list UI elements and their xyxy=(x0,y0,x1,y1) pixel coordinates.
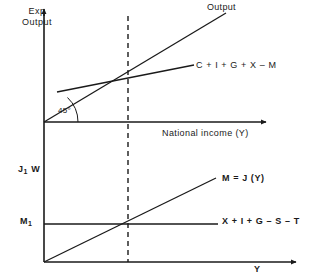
aggregate-expenditure-line-label: C + I + G + X – M xyxy=(196,60,276,71)
m1-tick-label-subscript: 1 xyxy=(28,220,32,227)
m1-tick-label: M1 xyxy=(20,216,32,229)
aggregate-expenditure-line xyxy=(57,65,194,92)
lower-y-axis-label-w: W xyxy=(31,164,40,174)
angle-label-45-degrees: 45° xyxy=(58,105,71,116)
m1-tick-label-main: M xyxy=(20,216,28,226)
upper-y-axis-label-line1: Exp xyxy=(22,6,52,17)
imports-function-line xyxy=(44,178,216,262)
output-line-label: Output xyxy=(207,2,236,13)
imports-function-label: M = J (Y) xyxy=(222,173,265,184)
lower-y-axis-label: J1 W xyxy=(18,164,40,177)
lower-x-axis-label: Y xyxy=(254,264,260,275)
upper-x-axis-label: National income (Y) xyxy=(162,128,249,139)
upper-y-axis-label-line2: Output xyxy=(22,17,52,28)
injections-line-label: X + I + G – S – T xyxy=(222,216,300,227)
keynesian-cross-diagram: Exp Output Output C + I + G + X – M 45° … xyxy=(0,0,324,279)
diagram-canvas xyxy=(0,0,324,279)
upper-y-axis-label: Exp Output xyxy=(22,6,52,28)
